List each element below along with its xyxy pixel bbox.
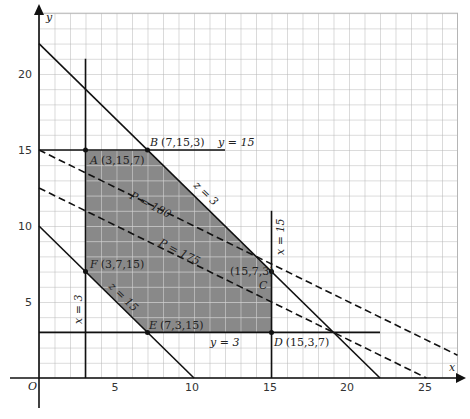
label-y3: y = 3 [209, 336, 239, 349]
y-axis-arrow-icon [34, 4, 44, 15]
vertex-d-label: D(15,3,7) [273, 336, 329, 349]
vertex-f-dot [83, 269, 88, 274]
vertex-c-coords-label: (15,7,3) [230, 265, 274, 278]
x-tick-20: 20 [340, 381, 354, 394]
vertex-b-label: B(7,15,3) [149, 136, 205, 149]
label-x15: x = 15 [274, 219, 287, 255]
vertex-a-label: A(3,15,7) [89, 154, 145, 167]
lp-graph: y x O 5 10 15 20 25 5 10 15 20 A(3,15,7)… [0, 0, 470, 419]
label-y15: y = 15 [217, 136, 254, 149]
vertex-a-dot [83, 148, 88, 153]
y-tick-5: 5 [25, 296, 32, 309]
x-tick-5: 5 [112, 381, 119, 394]
vertex-c-name-label: C [259, 279, 268, 292]
origin-label: O [28, 380, 37, 393]
vertex-f-label: F(3,7,15) [89, 258, 144, 271]
x-axis-label: x [449, 361, 456, 374]
x-tick-10: 10 [185, 381, 199, 394]
vertex-e-label: E(7,3,15) [148, 319, 204, 332]
y-tick-15: 15 [18, 144, 32, 157]
y-tick-20: 20 [18, 68, 32, 81]
vertex-d-dot [269, 330, 274, 335]
y-tick-10: 10 [18, 220, 32, 233]
label-x3: x = 3 [72, 295, 85, 324]
y-axis-label: y [45, 11, 53, 24]
x-tick-15: 15 [263, 381, 277, 394]
x-axis-arrow-icon [456, 373, 466, 383]
x-tick-25: 25 [418, 381, 432, 394]
